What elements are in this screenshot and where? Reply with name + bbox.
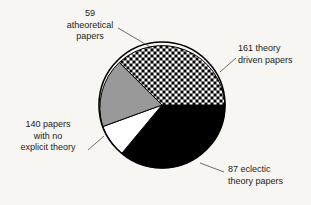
pie-label-no-explicit-theory-line1: 140 papers bbox=[2, 119, 94, 131]
pie-chart-figure: 59 atheoretical papers 161 theory driven… bbox=[0, 0, 311, 205]
leader-line-theory-driven bbox=[220, 58, 236, 72]
pie-label-no-explicit-theory-line3: explicit theory bbox=[2, 142, 94, 154]
leader-line-eclectic bbox=[200, 163, 224, 172]
pie-label-eclectic-theory: 87 eclectic theory papers bbox=[228, 164, 310, 187]
pie-label-atheoretical-line3: papers bbox=[47, 31, 133, 43]
pie-label-eclectic-theory-line1: 87 eclectic bbox=[228, 164, 310, 176]
pie-label-atheoretical: 59 atheoretical papers bbox=[47, 8, 133, 43]
pie-label-atheoretical-line1: 59 bbox=[47, 8, 133, 20]
pie-label-theory-driven: 161 theory driven papers bbox=[238, 43, 310, 66]
pie-label-eclectic-theory-line2: theory papers bbox=[228, 176, 310, 188]
pie-label-no-explicit-theory: 140 papers with no explicit theory bbox=[2, 119, 94, 154]
pie-label-theory-driven-line2: driven papers bbox=[238, 55, 310, 67]
pie-label-theory-driven-line1: 161 theory bbox=[238, 43, 310, 55]
pie-label-atheoretical-line2: atheoretical bbox=[47, 20, 133, 32]
pie-label-no-explicit-theory-line2: with no bbox=[2, 131, 94, 143]
